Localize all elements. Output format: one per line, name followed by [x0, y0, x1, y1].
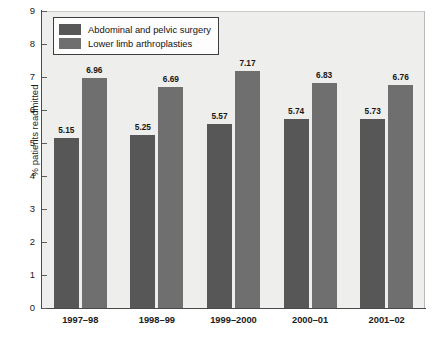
x-axis-tick-label: 1997–98	[42, 315, 119, 325]
bar-1-3[interactable]	[312, 83, 337, 308]
bar-value-label: 5.73	[354, 107, 391, 115]
y-axis-tick	[42, 308, 47, 309]
y-axis-tick-label: 8	[7, 39, 35, 49]
legend-label-series-0: Abdominal and pelvic surgery	[88, 24, 211, 35]
chart-legend: Abdominal and pelvic surgery Lower limb …	[53, 17, 219, 55]
y-axis-title: % patients readmitted	[29, 41, 40, 221]
bar-0-4[interactable]	[360, 119, 385, 308]
y-axis-tick	[42, 44, 47, 45]
y-axis-tick-label: 6	[7, 105, 35, 115]
bar-0-1[interactable]	[130, 135, 155, 308]
y-axis-tick-label: 1	[7, 270, 35, 280]
bar-value-label: 5.74	[278, 107, 315, 115]
y-axis-tick-label: 5	[7, 138, 35, 148]
x-axis-tick-label: 2001–02	[348, 315, 425, 325]
bar-1-2[interactable]	[235, 71, 260, 308]
bar-value-label: 7.17	[229, 59, 266, 67]
y-axis-tick-label: 3	[7, 204, 35, 214]
legend-item-abdominal-and-pelvic-surgery[interactable]: Abdominal and pelvic surgery	[59, 22, 211, 36]
y-axis-tick	[42, 11, 47, 12]
legend-item-lower-limb-arthroplasties[interactable]: Lower limb arthroplasties	[59, 36, 211, 50]
bar-1-1[interactable]	[158, 87, 183, 308]
x-axis-tick-label: 1998–99	[119, 315, 196, 325]
y-axis-line	[41, 10, 42, 309]
bar-1-4[interactable]	[388, 85, 413, 308]
bar-value-label: 5.25	[124, 123, 161, 131]
bar-0-3[interactable]	[284, 119, 309, 308]
legend-swatch-icon-series-0	[59, 24, 81, 35]
legend-label-series-1: Lower limb arthroplasties	[88, 38, 192, 49]
y-axis-tick-label: 4	[7, 171, 35, 181]
y-axis-tick	[42, 275, 47, 276]
y-axis-tick	[42, 77, 47, 78]
bar-value-label: 6.69	[152, 75, 189, 83]
y-axis-tick	[42, 176, 47, 177]
x-axis-tick-label: 2000–01	[272, 315, 349, 325]
y-axis-tick	[42, 143, 47, 144]
bar-value-label: 6.83	[306, 71, 343, 79]
y-axis-tick	[42, 110, 47, 111]
bar-value-label: 6.76	[382, 73, 419, 81]
legend-swatch-icon-series-1	[59, 38, 81, 49]
bar-value-label: 5.15	[48, 126, 85, 134]
bar-value-label: 6.96	[76, 66, 113, 74]
y-axis-tick	[42, 209, 47, 210]
bar-1-0[interactable]	[82, 78, 107, 308]
y-axis-tick-label: 2	[7, 237, 35, 247]
y-axis-tick-label: 7	[7, 72, 35, 82]
x-axis-tick-label: 1999–2000	[195, 315, 272, 325]
bar-value-label: 5.57	[201, 112, 238, 120]
bar-0-0[interactable]	[54, 138, 79, 308]
y-axis-tick-label: 0	[7, 303, 35, 313]
chart-figure: to 2001-02 % patients readmitted 0123456…	[0, 0, 438, 345]
y-axis-tick	[42, 242, 47, 243]
bar-0-2[interactable]	[207, 124, 232, 308]
y-axis-tick-label: 9	[7, 6, 35, 16]
